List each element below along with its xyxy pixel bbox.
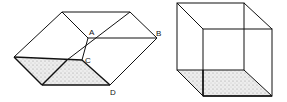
left-parallelepiped bbox=[14, 12, 157, 85]
label-b: B bbox=[156, 29, 161, 38]
right-necker-cube bbox=[177, 3, 272, 96]
label-c: C bbox=[85, 56, 91, 65]
label-a: A bbox=[89, 28, 95, 37]
label-d: D bbox=[110, 88, 116, 97]
figure-canvas: A B C D bbox=[0, 0, 287, 102]
